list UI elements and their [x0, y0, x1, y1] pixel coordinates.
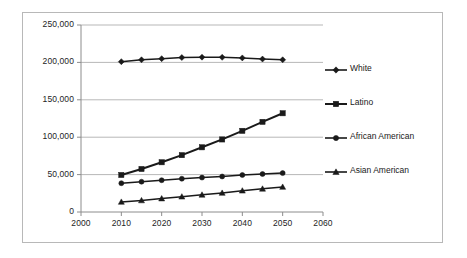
data-point-square-marker [240, 128, 245, 133]
legend-item-asian-american[interactable]: Asian American [323, 153, 443, 187]
y-tick-label: 200,000 [23, 56, 74, 66]
x-tick-label: 2040 [222, 218, 262, 228]
data-point-square-marker [220, 137, 225, 142]
diamond-marker-icon [323, 62, 349, 74]
data-point-diamond-marker [118, 59, 124, 65]
y-tick-label: 250,000 [23, 19, 74, 29]
circle-marker-icon [323, 130, 349, 142]
legend-label: White [350, 63, 372, 73]
x-tick-label: 2020 [142, 218, 182, 228]
data-point-square-marker [119, 172, 124, 177]
data-point-diamond-marker [179, 55, 185, 61]
y-tick-label: 150,000 [23, 94, 74, 104]
square-marker-icon [323, 96, 349, 108]
data-point-circle-marker [240, 172, 245, 177]
legend-item-african-american[interactable]: African American [323, 119, 443, 153]
legend-label: Asian American [350, 165, 409, 175]
data-point-square-marker [260, 119, 265, 124]
series-asian-american [118, 184, 285, 204]
series-latino [119, 111, 286, 178]
chart-legend: WhiteLatinoAfrican AmericanAsian America… [323, 51, 443, 187]
plot-area: 050,000100,000150,000200,000250,000 2000… [23, 13, 444, 244]
data-point-diamond-marker [199, 54, 205, 60]
data-point-diamond-marker [139, 57, 145, 63]
legend-label: Latino [350, 97, 373, 107]
series-african-american [119, 171, 285, 186]
legend-label: African American [350, 131, 414, 141]
y-tick-label: 0 [23, 206, 74, 216]
data-point-square-marker [139, 166, 144, 171]
data-point-square-marker [280, 111, 285, 116]
legend-item-latino[interactable]: Latino [323, 85, 443, 119]
y-tick-label: 100,000 [23, 131, 74, 141]
x-tick-label: 2010 [101, 218, 141, 228]
data-point-diamond-marker [239, 55, 245, 61]
data-point-circle-marker [260, 172, 265, 177]
y-tick-label: 50,000 [23, 169, 74, 179]
data-point-circle-marker [220, 174, 225, 179]
series-line [121, 113, 282, 175]
x-tick-label: 2030 [182, 218, 222, 228]
data-point-circle-marker [200, 175, 205, 180]
data-point-circle-marker [280, 171, 285, 176]
data-point-square-marker [179, 153, 184, 158]
series-white [118, 54, 285, 64]
data-point-circle-marker [179, 176, 184, 181]
chart-frame: 050,000100,000150,000200,000250,000 2000… [22, 12, 443, 243]
data-point-square-marker [199, 145, 204, 150]
data-point-circle-marker [139, 179, 144, 184]
data-point-diamond-marker [280, 57, 286, 63]
triangle-marker-icon [323, 164, 349, 176]
x-tick-label: 2050 [263, 218, 303, 228]
data-point-diamond-marker [219, 54, 225, 60]
data-point-square-marker [159, 160, 164, 165]
x-tick-label: 2000 [61, 218, 101, 228]
data-point-circle-marker [119, 181, 124, 186]
data-point-diamond-marker [260, 56, 266, 62]
data-point-circle-marker [159, 178, 164, 183]
legend-item-white[interactable]: White [323, 51, 443, 85]
data-point-diamond-marker [159, 56, 165, 62]
x-tick-label: 2060 [303, 218, 343, 228]
